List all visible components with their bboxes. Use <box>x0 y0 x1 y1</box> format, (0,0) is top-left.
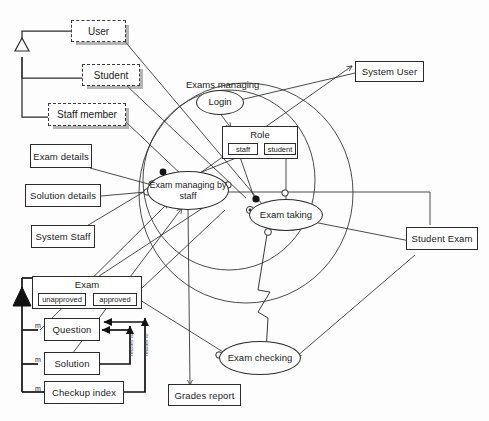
usecase-exam-taking[interactable]: Exam taking <box>249 199 323 231</box>
usecase-exam-taking-label: Exam taking <box>260 210 312 221</box>
edge-examtaking-examchecking-zigzag <box>258 228 270 352</box>
usecase-login[interactable]: Login <box>196 90 244 115</box>
box-system-staff-label: System Staff <box>36 231 91 242</box>
box-solution-label: Solution <box>54 358 89 369</box>
edge-label-relates-to-1: relates to <box>128 333 134 356</box>
chip-exam-unapproved[interactable]: unapproved <box>38 293 86 306</box>
box-solution[interactable]: Solution <box>44 352 100 375</box>
chip-role-staff[interactable]: staff <box>228 143 258 155</box>
chip-role-student-label: student <box>268 145 293 154</box>
actor-user[interactable]: User <box>71 20 126 42</box>
usecase-exam-checking[interactable]: Exam checking <box>219 341 301 375</box>
box-student-exam[interactable]: Student Exam <box>406 227 478 250</box>
edge-exammanaging-gradesreport <box>188 210 190 385</box>
chip-exam-approved[interactable]: approved <box>93 293 137 306</box>
box-system-user[interactable]: System User <box>355 61 424 82</box>
box-exam-details-label: Exam details <box>33 151 89 162</box>
composition-filled-triangle <box>13 287 31 306</box>
chip-exam-unapproved-label: unapproved <box>42 295 82 304</box>
generalization-triangle <box>15 38 29 51</box>
usecase-exam-checking-label: Exam checking <box>228 353 292 364</box>
chip-role-student[interactable]: student <box>264 143 296 155</box>
box-exam-details[interactable]: Exam details <box>30 144 92 168</box>
box-system-user-label: System User <box>362 66 417 77</box>
class-role[interactable]: Role staff student <box>222 126 298 159</box>
usecase-login-label: Login <box>208 97 231 108</box>
actor-user-label: User <box>88 26 109 37</box>
box-student-exam-label: Student Exam <box>412 233 473 244</box>
actor-student-label: Student <box>94 70 128 81</box>
class-exam[interactable]: Exam unapproved approved <box>32 276 142 309</box>
edge-role-examtaking-diagonal <box>240 157 255 200</box>
chip-role-staff-label: staff <box>236 145 250 154</box>
box-grades-report-label: Grades report <box>175 390 235 401</box>
class-exam-title: Exam <box>33 277 141 290</box>
edge-studentexam-examchecking <box>296 255 415 357</box>
usecase-exam-managing-by-staff[interactable]: Exam managing by staff <box>147 171 229 210</box>
multiplicity-checkup-index: m <box>35 385 41 392</box>
chip-exam-approved-label: approved <box>99 295 130 304</box>
box-question-label: Question <box>53 324 92 335</box>
class-role-title: Role <box>223 127 297 140</box>
box-system-staff[interactable]: System Staff <box>31 225 95 248</box>
actor-student[interactable]: Student <box>82 64 140 86</box>
box-solution-details[interactable]: Solution details <box>25 184 101 207</box>
box-checkup-index-label: Checkup index <box>52 387 116 398</box>
multiplicity-question: m <box>35 322 41 329</box>
edge-label-relates-to-2: relates to <box>143 333 149 356</box>
edge-staffmember-exammanaging <box>126 122 185 178</box>
multiplicity-solution: m <box>35 356 41 363</box>
edge-to-exam-box <box>90 200 215 282</box>
actor-staff-member[interactable]: Staff member <box>48 103 126 126</box>
actor-staff-member-label: Staff member <box>57 109 117 120</box>
box-grades-report[interactable]: Grades report <box>168 384 241 406</box>
box-question[interactable]: Question <box>44 318 100 341</box>
usecase-exam-managing-by-staff-label: Exam managing by staff <box>148 180 228 200</box>
box-checkup-index[interactable]: Checkup index <box>44 381 124 404</box>
diagram-canvas: User Student Staff member Exam details S… <box>0 0 489 421</box>
edge-examapproved-up <box>142 210 225 288</box>
edge-exammanaging-systemuser <box>190 66 352 180</box>
box-solution-details-label: Solution details <box>30 190 96 201</box>
